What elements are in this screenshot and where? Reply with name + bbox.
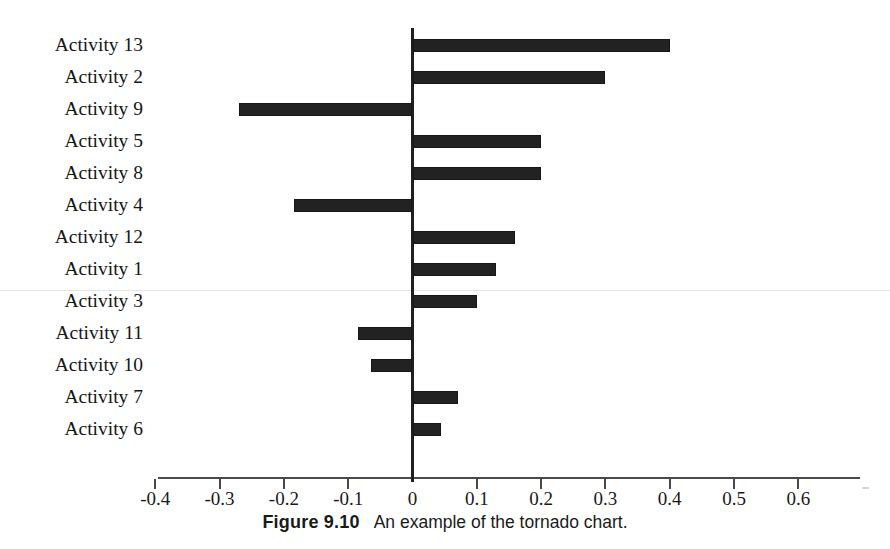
category-label: Activity 7	[0, 381, 143, 413]
tornado-chart-row: Activity 7	[0, 381, 890, 413]
tornado-chart-row: Activity 5	[0, 125, 890, 157]
category-label: Activity 2	[0, 61, 143, 93]
tornado-chart-row: Activity 9	[0, 93, 890, 125]
category-label: Activity 1	[0, 253, 143, 285]
x-axis-tick-label: 0	[385, 488, 441, 510]
category-label: Activity 9	[0, 93, 143, 125]
tornado-chart-figure: -0.4-0.3-0.2-0.100.10.20.30.40.50.6Activ…	[0, 0, 890, 549]
figure-caption: Figure 9.10An example of the tornado cha…	[0, 512, 890, 533]
tornado-chart-row: Activity 13	[0, 29, 890, 61]
tornado-bar	[294, 199, 413, 212]
x-axis-tick-label: 0.5	[706, 488, 762, 510]
tornado-bar	[371, 359, 413, 372]
category-label: Activity 5	[0, 125, 143, 157]
tornado-bar	[358, 327, 413, 340]
tornado-chart-row: Activity 4	[0, 189, 890, 221]
tornado-chart-row: Activity 2	[0, 61, 890, 93]
tornado-bar	[413, 39, 670, 52]
tornado-chart-row: Activity 11	[0, 317, 890, 349]
tornado-bar	[413, 263, 497, 276]
tornado-chart-row: Activity 6	[0, 413, 890, 445]
tornado-bar	[239, 103, 413, 116]
x-axis-tick-label: -0.2	[256, 488, 312, 510]
tornado-chart-row: Activity 8	[0, 157, 890, 189]
tornado-chart-row: Activity 10	[0, 349, 890, 381]
figure-caption-text: An example of the tornado chart.	[374, 512, 628, 532]
tornado-bar	[413, 167, 542, 180]
category-label: Activity 13	[0, 29, 143, 61]
category-label: Activity 4	[0, 189, 143, 221]
x-axis-tick-label: -0.3	[192, 488, 248, 510]
tornado-bar	[413, 423, 442, 436]
category-label: Activity 10	[0, 349, 143, 381]
category-label: Activity 11	[0, 317, 143, 349]
tornado-chart-row: Activity 3	[0, 285, 890, 317]
x-axis-tick-label: 0.3	[577, 488, 633, 510]
x-axis-line	[158, 477, 860, 479]
x-axis-tick-label: 0.2	[513, 488, 569, 510]
tornado-chart-plot-area: -0.4-0.3-0.2-0.100.10.20.30.40.50.6Activ…	[0, 0, 890, 500]
tornado-bar	[413, 295, 477, 308]
x-axis-tick-label: 0.4	[642, 488, 698, 510]
tornado-bar	[413, 71, 606, 84]
figure-number: Figure 9.10	[262, 512, 359, 532]
x-axis-tick-label: 0.6	[770, 488, 826, 510]
x-axis-tick-label: 0.1	[449, 488, 505, 510]
x-axis-tick-label: -0.4	[127, 488, 183, 510]
x-axis-tick-label: -0.1	[320, 488, 376, 510]
tornado-chart-row: Activity 12	[0, 221, 890, 253]
tornado-bar	[413, 231, 516, 244]
category-label: Activity 12	[0, 221, 143, 253]
category-label: Activity 8	[0, 157, 143, 189]
tornado-bar	[413, 391, 458, 404]
tornado-chart-row: Activity 1	[0, 253, 890, 285]
category-label: Activity 3	[0, 285, 143, 317]
category-label: Activity 6	[0, 413, 143, 445]
tornado-bar	[413, 135, 542, 148]
x-axis-tick	[411, 470, 414, 482]
